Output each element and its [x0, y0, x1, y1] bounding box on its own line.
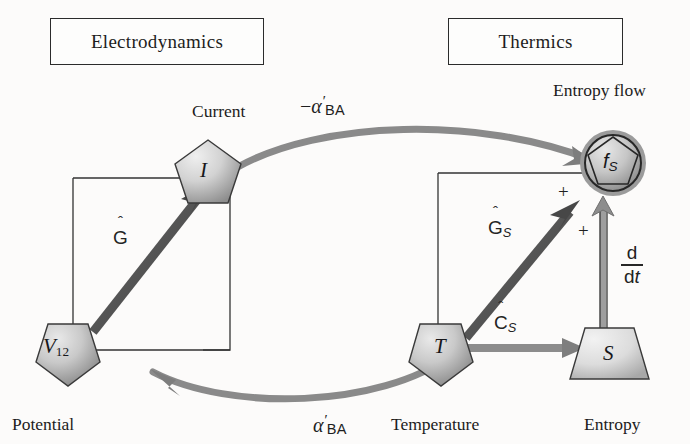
caption-entropy: Entropy [584, 414, 640, 435]
node-entropy[interactable] [570, 328, 649, 379]
header-box-thermics: Thermics [448, 18, 623, 65]
hat-mark-icon: ˆ [493, 204, 498, 219]
caption-entropy-text: Entropy [584, 414, 640, 434]
edge-cs-hat [464, 338, 585, 358]
node-potential[interactable] [36, 324, 100, 386]
edge-g-hat [93, 183, 210, 332]
edge-label-gs-hat: ˆGS [488, 217, 511, 240]
header-label-electrodynamics: Electrodynamics [91, 31, 223, 53]
header-box-electrodynamics: Electrodynamics [50, 18, 264, 65]
caption-current-text: Current [192, 101, 245, 121]
sign-plus-bottom: + [578, 220, 589, 242]
node-symbol-entropy-flow: fS [603, 150, 618, 174]
sign-plus-bottom-text: + [578, 220, 589, 241]
edge-label-ddt: d dt [621, 243, 643, 287]
alpha-symbol-top: α [311, 95, 322, 117]
caption-entropy-flow: Entropy flow [553, 80, 646, 101]
edge-label-alpha-top: −α′BA [300, 93, 345, 118]
hat-mark-icon: ˆ [498, 299, 503, 314]
caption-current: Current [192, 101, 245, 122]
ddt-numerator: d [621, 243, 643, 264]
caption-potential: Potential [12, 414, 74, 435]
sign-plus-top-text: + [558, 181, 569, 202]
header-label-thermics: Thermics [498, 31, 572, 53]
diagram-canvas: Electrodynamics Thermics I V12 fS T S Cu… [0, 0, 690, 444]
edge-label-gs-hat-sub: S [503, 225, 512, 240]
ddt-denominator: dt [621, 266, 643, 287]
loop-thermics [438, 173, 600, 345]
edge-gs-hat [466, 200, 580, 338]
hat-mark-icon: ˆ [118, 214, 123, 229]
edge-label-g-hat-text: G [113, 227, 128, 248]
caption-temperature-text: Temperature [391, 414, 479, 434]
edge-label-gs-hat-text: G [488, 217, 503, 238]
node-symbol-entropy-flow-sub: S [609, 159, 618, 174]
edge-label-alpha-bottom: α′BA [313, 412, 347, 437]
edge-alpha-top [236, 129, 596, 168]
caption-entropy-flow-text: Entropy flow [553, 80, 646, 100]
edge-label-cs-hat: ˆCS [494, 312, 516, 335]
minus-sign: − [300, 95, 311, 117]
edge-label-cs-hat-sub: S [508, 320, 517, 335]
edge-alpha-bottom [150, 355, 452, 399]
ddt-denominator-d: d [624, 266, 635, 287]
alpha-symbol-bottom: α [313, 414, 324, 436]
alpha-sub-bottom: BA [327, 421, 347, 437]
caption-potential-text: Potential [12, 414, 74, 434]
ddt-denominator-t: t [635, 266, 640, 287]
edge-ddt [592, 196, 614, 330]
edge-label-g-hat: ˆG [113, 227, 128, 249]
sign-plus-top: + [558, 181, 569, 203]
edge-label-cs-hat-text: C [494, 312, 508, 333]
caption-temperature: Temperature [391, 414, 479, 435]
alpha-sub-top: BA [325, 102, 345, 118]
node-current[interactable] [175, 140, 241, 203]
